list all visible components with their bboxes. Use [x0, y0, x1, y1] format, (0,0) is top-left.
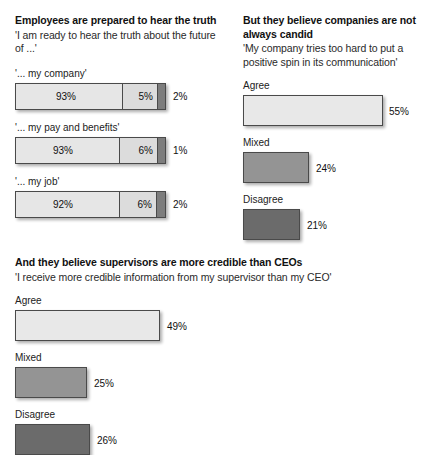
stacked-bar: 92% 6%	[15, 191, 166, 218]
stacked-bar-group: '... my job' 92% 6% 2%	[15, 175, 220, 218]
bar-group-agree: Agree 55%	[243, 79, 433, 126]
bar-value-mixed: 24%	[316, 162, 336, 173]
bar-segment-agree: 93%	[15, 83, 123, 110]
bar-segment-disagree	[157, 137, 166, 164]
bar-segment-disagree	[157, 83, 166, 110]
bar-segment-mixed: 5%	[122, 83, 158, 110]
bar-group-mixed: Mixed 24%	[243, 136, 433, 183]
bar-segment-mixed: 6%	[119, 191, 157, 218]
bar-value-mixed: 6%	[139, 145, 153, 156]
stacked-bar-row: 93% 6% 1%	[15, 137, 220, 164]
bar-category-label: Mixed	[243, 136, 433, 149]
stacked-bar-group: '... my company' 93% 5% 2%	[15, 67, 220, 110]
bar-value-mixed: 5%	[139, 91, 153, 102]
panel-left-headline: Employees are prepared to hear the truth	[15, 14, 220, 28]
panel-right-headline: But they believe companies are not alway…	[243, 14, 433, 41]
bar-category-label: '... my pay and benefits'	[15, 121, 220, 134]
stacked-bar: 93% 5%	[15, 83, 166, 110]
bar-value-agree: 55%	[389, 105, 409, 116]
stacked-bar-row: 92% 6% 2%	[15, 191, 220, 218]
bar-disagree	[243, 209, 300, 240]
bar-value-agree: 92%	[53, 199, 73, 210]
bar-value-disagree: 1%	[173, 145, 187, 156]
bar-segment-agree: 93%	[15, 137, 120, 164]
bar-agree	[15, 310, 160, 341]
bar-category-label: Disagree	[15, 408, 425, 421]
bar-group-agree: Agree 49%	[15, 294, 425, 341]
stacked-bar: 93% 6%	[15, 137, 166, 164]
bar-value-mixed: 6%	[138, 199, 152, 210]
bar-category-label: Disagree	[243, 193, 433, 206]
bar-segment-disagree	[156, 191, 166, 218]
bar-segment-mixed: 6%	[119, 137, 158, 164]
panel-employees-prepared: Employees are prepared to hear the truth…	[15, 14, 220, 218]
bar-disagree	[15, 424, 90, 455]
panel-left-subhead: 'I am ready to hear the truth about the …	[15, 29, 220, 56]
bar-category-label: Agree	[243, 79, 433, 92]
bar-group-disagree: Disagree 21%	[243, 193, 433, 240]
panel-bottom-subhead: 'I receive more credible information fro…	[15, 271, 425, 285]
bar-row: 49%	[15, 310, 425, 341]
bar-row: 24%	[243, 152, 433, 183]
bar-group-mixed: Mixed 25%	[15, 351, 425, 398]
bar-row: 55%	[243, 95, 433, 126]
panel-supervisors-credible: And they believe supervisors are more cr…	[15, 256, 425, 455]
bar-value-disagree: 21%	[307, 219, 327, 230]
panel-companies-candid: But they believe companies are not alway…	[243, 14, 433, 240]
bar-value-disagree: 26%	[97, 434, 117, 445]
panel-right-subhead: 'My company tries too hard to put a posi…	[243, 42, 433, 69]
stacked-bar-group: '... my pay and benefits' 93% 6% 1%	[15, 121, 220, 164]
bar-group-disagree: Disagree 26%	[15, 408, 425, 455]
bar-mixed	[15, 367, 87, 398]
bar-value-agree: 93%	[56, 91, 76, 102]
bar-category-label: Agree	[15, 294, 425, 307]
bar-segment-agree: 92%	[15, 191, 120, 218]
bar-value-mixed: 25%	[94, 377, 114, 388]
bar-value-agree: 49%	[167, 320, 187, 331]
bar-category-label: Mixed	[15, 351, 425, 364]
stacked-bar-row: 93% 5% 2%	[15, 83, 220, 110]
bar-row: 21%	[243, 209, 433, 240]
bar-category-label: '... my company'	[15, 67, 220, 80]
bar-mixed	[243, 152, 309, 183]
bar-value-disagree: 2%	[173, 91, 187, 102]
panel-bottom-headline: And they believe supervisors are more cr…	[15, 256, 425, 270]
bar-agree	[243, 95, 383, 126]
bar-value-disagree: 2%	[173, 199, 187, 210]
bar-category-label: '... my job'	[15, 175, 220, 188]
bar-row: 26%	[15, 424, 425, 455]
bar-row: 25%	[15, 367, 425, 398]
bar-value-agree: 93%	[53, 145, 73, 156]
